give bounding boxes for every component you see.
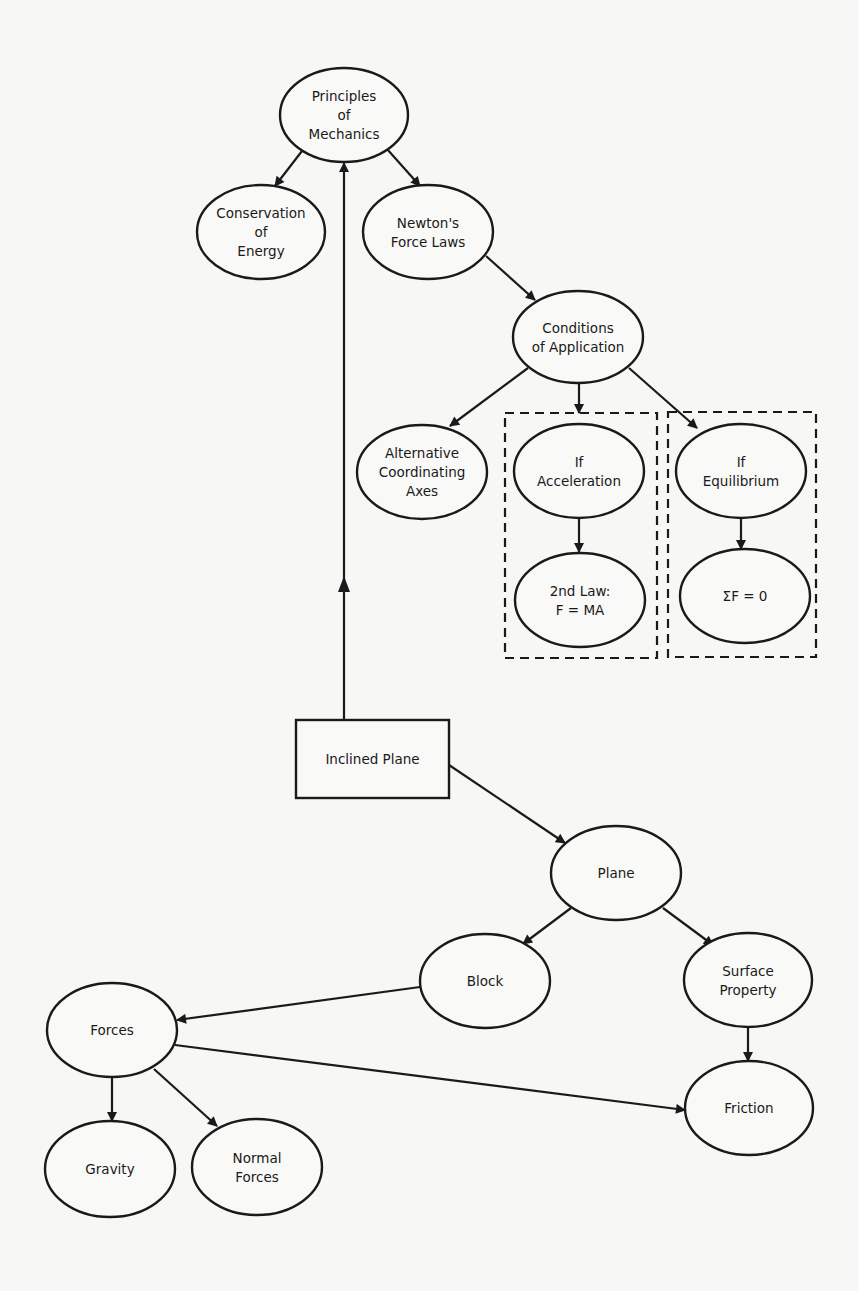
node-label: Gravity [85,1161,134,1177]
node-block: Block [420,934,550,1028]
node-forces: Forces [47,983,177,1077]
mid-arrowhead-icon [338,576,350,592]
node-gravity: Gravity [45,1121,175,1217]
node-conservation: ConservationofEnergy [197,185,325,279]
node-inclined-plane: Inclined Plane [296,720,449,798]
node-label: Forces [235,1169,279,1185]
node-newton-ellipse [363,185,493,279]
node-conditions: Conditionsof Application [513,291,643,383]
node-label: Energy [237,243,284,259]
node-if-acceleration-ellipse [514,424,644,518]
node-label: If [575,454,585,470]
concept-map-svg: PrinciplesofMechanicsConservationofEnerg… [0,0,859,1291]
node-plane: Plane [551,826,681,920]
node-label: Acceleration [537,473,621,489]
node-label: Axes [406,483,438,499]
node-label: Principles [312,88,377,104]
node-label: Coordinating [379,464,466,480]
node-label: Forces [90,1022,134,1038]
node-label: If [737,454,747,470]
node-label: Property [719,982,776,998]
node-label: Equilibrium [703,473,780,489]
edge-plane-to-surface-property [663,908,713,945]
node-principles: PrinciplesofMechanics [280,68,408,162]
node-label: Inclined Plane [325,751,419,767]
node-surface-property-ellipse [684,933,812,1027]
node-label: Friction [724,1100,773,1116]
node-normal-forces: NormalForces [192,1119,322,1215]
node-normal-forces-ellipse [192,1119,322,1215]
node-newton: Newton'sForce Laws [363,185,493,279]
edge-newton-to-conditions [486,256,535,300]
node-second-law: 2nd Law:F = MA [515,553,645,647]
node-label: of [337,107,351,123]
node-label: Mechanics [309,126,380,142]
edge-block-to-forces [177,987,420,1020]
node-label: F = MA [556,602,605,618]
node-if-equilibrium: IfEquilibrium [676,424,806,518]
node-if-acceleration: IfAcceleration [514,424,644,518]
node-label: of [254,224,268,240]
edge-inclined-plane-to-plane [449,765,565,843]
node-label: of Application [532,339,625,355]
edge-forces-to-friction [175,1045,685,1110]
edge-plane-to-block [523,908,571,944]
node-label: Force Laws [391,234,466,250]
node-label: Surface [722,963,773,979]
node-label: Conservation [216,205,305,221]
node-friction: Friction [685,1061,813,1155]
edge-principles-to-newton [387,149,420,186]
node-sum-f-zero: ΣF = 0 [680,549,810,643]
node-if-equilibrium-ellipse [676,424,806,518]
node-second-law-ellipse [515,553,645,647]
node-label: Newton's [397,215,459,231]
node-label: Conditions [542,320,613,336]
node-alternative: AlternativeCoordinatingAxes [357,425,487,519]
node-label: Block [467,973,504,989]
edge-principles-to-conservation [275,151,302,186]
edge-conditions-to-alternative [450,368,528,426]
concept-map: PrinciplesofMechanicsConservationofEnerg… [0,0,859,1291]
node-surface-property: SurfaceProperty [684,933,812,1027]
node-label: ΣF = 0 [723,588,768,604]
node-label: Alternative [385,445,459,461]
node-label: Plane [597,865,634,881]
edge-conditions-to-if-equilibrium [629,368,697,428]
node-label: 2nd Law: [550,583,611,599]
edge-forces-to-normal-forces [154,1069,217,1126]
node-label: Normal [233,1150,282,1166]
node-conditions-ellipse [513,291,643,383]
